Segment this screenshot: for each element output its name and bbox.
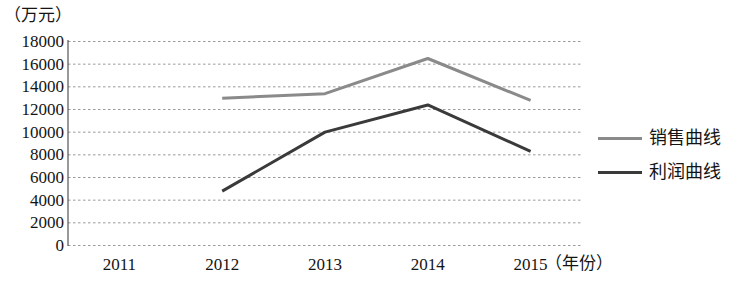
x-axis-tick-label: 2011 xyxy=(89,256,149,273)
gridlines xyxy=(68,42,582,246)
series-line xyxy=(222,59,530,101)
series-lines xyxy=(222,59,530,192)
legend-line-swatch xyxy=(598,137,642,140)
series-line xyxy=(222,105,530,191)
legend-item: 销售曲线 xyxy=(598,129,721,147)
legend-item: 利润曲线 xyxy=(598,163,721,181)
legend-label: 利润曲线 xyxy=(649,163,721,181)
x-axis-tick-label: 2014 xyxy=(398,256,458,273)
legend-line-swatch xyxy=(598,171,642,174)
x-axis-tick-label: 2013 xyxy=(295,256,355,273)
x-axis-tick-label: 2012 xyxy=(192,256,252,273)
x-axis-name: （年份） xyxy=(545,255,613,272)
line-chart: （万元） 18000160001400012000100008000600040… xyxy=(0,0,744,308)
legend-label: 销售曲线 xyxy=(649,129,721,147)
